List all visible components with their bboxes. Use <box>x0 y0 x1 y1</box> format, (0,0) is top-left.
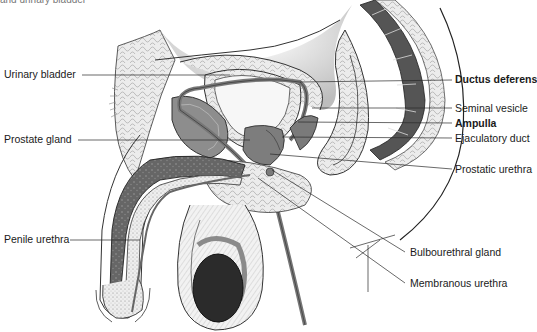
label-urinary-bladder: Urinary bladder <box>4 68 76 80</box>
label-seminal-vesicle: Seminal vesicle <box>455 102 528 114</box>
label-ampulla: Ampulla <box>455 117 496 129</box>
label-ductus-deferens: Ductus deferens <box>455 73 537 85</box>
label-prostatic-urethra: Prostatic urethra <box>455 163 532 175</box>
label-bulbourethral-gland: Bulbourethral gland <box>410 246 501 258</box>
label-membranous-urethra: Membranous urethra <box>410 277 507 289</box>
label-penile-urethra: Penile urethra <box>4 233 69 245</box>
label-ejaculatory-duct: Ejaculatory duct <box>455 132 530 144</box>
label-prostate-gland: Prostate gland <box>4 133 72 145</box>
